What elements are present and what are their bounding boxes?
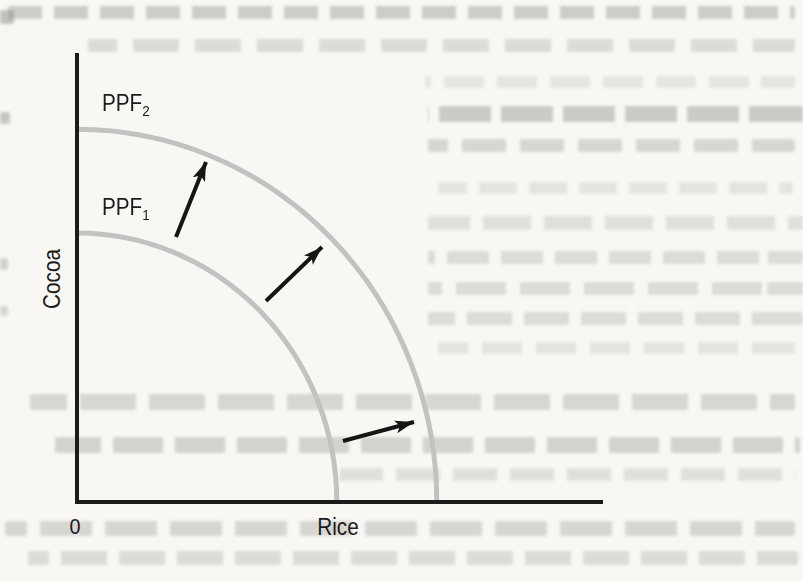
ppf2-label-base: PPF: [102, 90, 142, 116]
ppf1-label-base: PPF: [102, 194, 142, 220]
ppf2-label: PPF2: [102, 92, 150, 118]
ppf1-curve: [77, 233, 337, 502]
ppf1-label-subscript: 1: [142, 206, 150, 223]
ppf2-curve: [77, 129, 437, 502]
origin-label: 0: [69, 516, 80, 538]
scanned-page: PPF2 PPF1 Cocoa 0 Rice: [0, 0, 803, 581]
shift-arrow-middle: [266, 247, 322, 301]
ppf2-label-subscript: 2: [142, 102, 150, 119]
shift-arrow-lower: [343, 422, 414, 441]
shift-arrow-upper: [176, 162, 206, 237]
ppf-figure: [0, 0, 803, 581]
x-axis-label: Rice: [317, 516, 358, 539]
ppf1-label: PPF1: [102, 196, 150, 222]
y-axis-label: Cocoa: [41, 249, 64, 309]
